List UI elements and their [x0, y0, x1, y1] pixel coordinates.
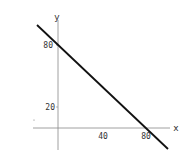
x-tick-label-80: 80: [141, 132, 151, 141]
y-tick-label-80: 80: [43, 41, 53, 50]
y-tick-label-20: 20: [45, 103, 55, 112]
y-axis-label: y: [54, 12, 60, 22]
stray-dot: [33, 119, 34, 120]
data-line: [37, 25, 168, 149]
line-chart: y x 80 20 40 80: [0, 0, 196, 161]
x-tick-label-40: 40: [98, 132, 108, 141]
x-axis-label: x: [173, 123, 179, 133]
